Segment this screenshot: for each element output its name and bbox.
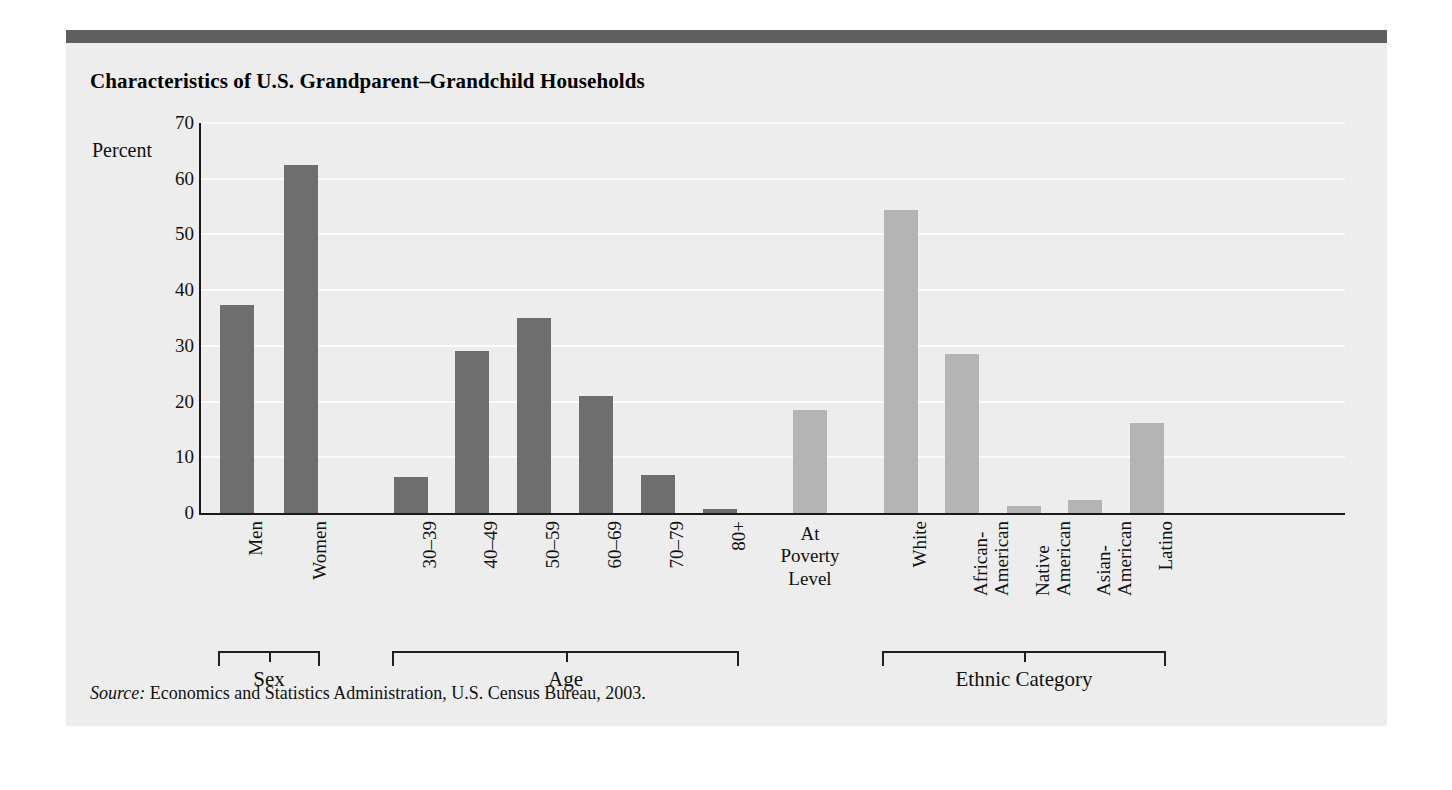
gridline-20 xyxy=(200,401,1345,403)
x-tick-label-line: American xyxy=(1054,521,1075,596)
x-tick-label: 70–79 xyxy=(667,521,688,569)
group-bracket: Age xyxy=(386,651,745,669)
bracket-end-right xyxy=(318,651,320,666)
gridline-60 xyxy=(200,178,1345,180)
top-accent-bar xyxy=(66,30,1387,43)
gridline-10 xyxy=(200,456,1345,458)
x-tick-label: NativeAmerican xyxy=(1033,521,1074,596)
source-label: Source: xyxy=(90,683,145,703)
x-tick-label-line: 30–39 xyxy=(419,521,440,569)
bar xyxy=(793,410,827,513)
bracket-center-tick xyxy=(269,651,271,662)
source-note: Source: Economics and Statistics Adminis… xyxy=(90,683,646,704)
bracket-center-tick xyxy=(566,651,568,662)
x-tick-label: African-American xyxy=(971,521,1012,596)
x-axis-line xyxy=(199,513,1345,515)
group-bracket: Sex xyxy=(212,651,326,669)
bar xyxy=(455,351,489,513)
y-tick-label-10: 10 xyxy=(134,446,194,468)
x-tick-label-line: 80+ xyxy=(728,521,749,551)
x-tick-label-line: Level xyxy=(780,568,839,590)
x-tick-label: Men xyxy=(246,521,267,556)
y-tick-label-60: 60 xyxy=(134,168,194,190)
gridline-30 xyxy=(200,345,1345,347)
x-tick-label-line: Native xyxy=(1032,545,1053,596)
source-text: Economics and Statistics Administration,… xyxy=(145,683,645,703)
x-tick-label-line: White xyxy=(909,521,930,567)
bracket-end-left xyxy=(392,651,394,666)
x-tick-label-line: 70–79 xyxy=(666,521,687,569)
bar xyxy=(517,318,551,513)
bracket-end-left xyxy=(882,651,884,666)
bar xyxy=(579,396,613,513)
bar xyxy=(703,509,737,513)
x-tick-label-line: 50–59 xyxy=(542,521,563,569)
chart-panel: Characteristics of U.S. Grandparent–Gran… xyxy=(66,43,1387,726)
x-tick-label-line: Latino xyxy=(1155,521,1176,571)
x-tick-label: 60–69 xyxy=(605,521,626,569)
x-tick-label-line: 60–69 xyxy=(604,521,625,569)
bar xyxy=(945,354,979,513)
bar xyxy=(1068,500,1102,513)
bracket-end-right xyxy=(1164,651,1166,666)
bar xyxy=(641,475,675,513)
bar xyxy=(1130,423,1164,513)
x-tick-label: AtPovertyLevel xyxy=(780,523,839,590)
x-tick-label: Latino xyxy=(1156,521,1177,571)
group-bracket-label: Ethnic Category xyxy=(955,667,1092,692)
bar xyxy=(884,210,918,513)
y-tick-label-0: 0 xyxy=(134,502,194,524)
x-tick-label-line: Men xyxy=(245,521,266,556)
x-tick-label-line: At xyxy=(780,523,839,545)
bracket-center-tick xyxy=(1024,651,1026,662)
gridline-50 xyxy=(200,233,1345,235)
x-tick-label: Women xyxy=(310,521,331,580)
bar xyxy=(1007,506,1041,513)
page-title: Characteristics of U.S. Grandparent–Gran… xyxy=(90,69,645,94)
x-tick-label-line: Poverty xyxy=(780,545,839,567)
x-tick-label: Asian-American xyxy=(1094,521,1135,596)
bar xyxy=(394,477,428,513)
x-tick-label: 30–39 xyxy=(420,521,441,569)
plot-area: 706050403020100 MenWomen30–3940–4950–596… xyxy=(200,123,1345,513)
bracket-end-right xyxy=(737,651,739,666)
y-tick-label-20: 20 xyxy=(134,391,194,413)
x-tick-label-line: 40–49 xyxy=(480,521,501,569)
y-tick-label-70: 70 xyxy=(134,112,194,134)
gridline-40 xyxy=(200,289,1345,291)
y-tick-label-40: 40 xyxy=(134,279,194,301)
y-tick-label-50: 50 xyxy=(134,223,194,245)
y-axis-line xyxy=(199,123,201,513)
x-tick-label-line: American xyxy=(1115,521,1136,596)
x-tick-label: 40–49 xyxy=(481,521,502,569)
y-axis-caption: Percent xyxy=(92,139,152,162)
bar xyxy=(220,305,254,513)
x-tick-label-line: American xyxy=(992,521,1013,596)
x-tick-label-line: Women xyxy=(309,521,330,580)
x-tick-label: 80+ xyxy=(729,521,750,551)
group-bracket: Ethnic Category xyxy=(876,651,1172,669)
figure-container: Characteristics of U.S. Grandparent–Gran… xyxy=(66,30,1387,726)
x-tick-label: 50–59 xyxy=(543,521,564,569)
x-tick-label-line: Asian- xyxy=(1093,545,1114,596)
y-tick-label-30: 30 xyxy=(134,335,194,357)
x-tick-label-line: African- xyxy=(970,532,991,596)
bracket-end-left xyxy=(218,651,220,666)
bar xyxy=(284,165,318,513)
x-tick-label: White xyxy=(910,521,931,567)
gridline-70 xyxy=(200,122,1345,124)
